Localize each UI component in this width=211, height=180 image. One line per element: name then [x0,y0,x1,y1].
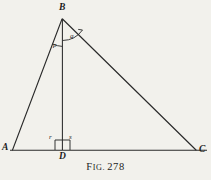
angle-label-r: r [49,134,52,141]
angle-label-s: s [69,134,72,141]
geometry-figure: A B C D p q r s FIG.278 [0,0,211,180]
side-BC [63,19,197,150]
vertex-label-B: B [59,3,65,13]
caption-prefix-rest: IG. [93,163,106,172]
caption-number: 278 [107,161,125,172]
vertex-label-C: C [199,145,205,155]
angle-label-p: p [53,42,57,49]
angle-label-q: q [70,33,74,40]
vertex-label-A: A [2,143,8,153]
triangle-diagram [0,0,211,180]
figure-caption: FIG.278 [0,161,211,172]
angle-arc-q-tick [78,29,82,30]
side-AB [13,19,63,150]
